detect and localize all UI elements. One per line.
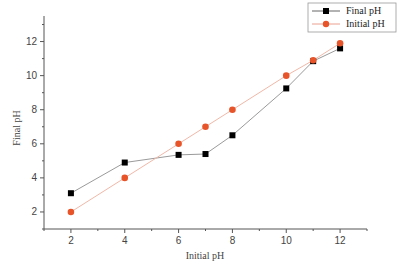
y-tick-label: 2	[31, 206, 37, 217]
x-axis-title: Initial pH	[186, 250, 225, 261]
x-tick-label: 6	[176, 235, 182, 246]
legend: Final pH Initial pH	[308, 3, 396, 32]
data-point-square	[176, 152, 182, 158]
y-tick-label: 8	[31, 104, 37, 115]
chart: 2468101224681012 Initial pH Final pH Fin…	[0, 0, 401, 268]
data-point-square	[68, 190, 74, 196]
data-point-circle	[68, 209, 75, 216]
data-point-square	[283, 85, 289, 91]
x-tick-label: 4	[122, 235, 128, 246]
data-point-square	[203, 151, 209, 157]
x-tick-label: 8	[230, 235, 236, 246]
x-tick-label: 10	[281, 235, 293, 246]
data-point-circle	[310, 57, 317, 64]
data-point-square	[229, 132, 235, 138]
y-tick-label: 10	[26, 70, 38, 81]
y-tick-label: 4	[31, 172, 37, 183]
axes: 2468101224681012	[26, 16, 367, 246]
data-point-square	[122, 160, 128, 166]
legend-marker-square-icon	[323, 8, 329, 14]
data-point-circle	[121, 175, 128, 182]
data-point-circle	[337, 40, 344, 47]
legend-label-initial: Initial pH	[346, 18, 385, 29]
x-tick-label: 12	[335, 235, 347, 246]
data-point-circle	[283, 72, 290, 79]
y-axis-title: Final pH	[11, 110, 22, 145]
y-tick-label: 12	[26, 36, 38, 47]
data-point-circle	[202, 123, 209, 130]
y-tick-label: 6	[31, 138, 37, 149]
data-point-circle	[229, 106, 236, 113]
x-tick-label: 2	[68, 235, 74, 246]
legend-label-final: Final pH	[346, 5, 381, 16]
plot-area	[68, 40, 344, 215]
data-point-circle	[175, 141, 182, 148]
legend-marker-circle-icon	[323, 21, 329, 27]
series-line-0	[71, 48, 340, 193]
